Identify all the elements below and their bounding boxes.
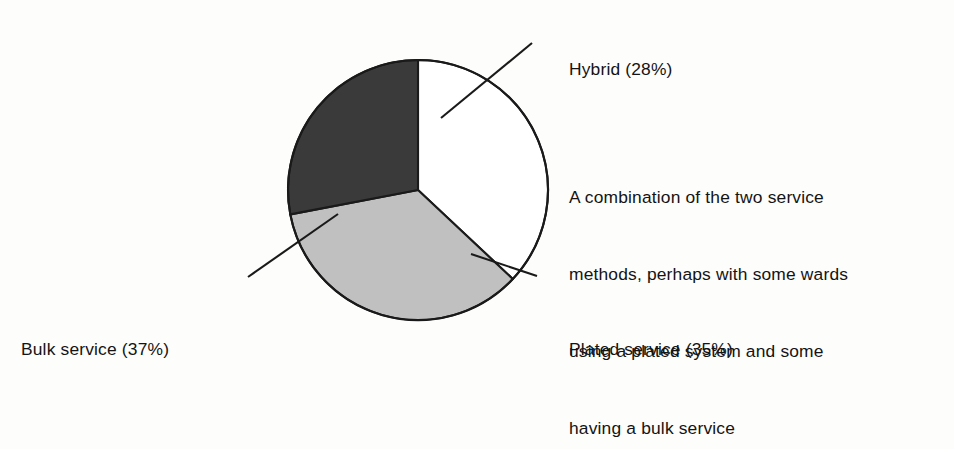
pie-chart-figure: Hybrid (28%) A combination of the two se… — [0, 0, 954, 449]
callout-hybrid-line-1: A combination of the two service — [569, 185, 954, 211]
callout-plated: Plated service (35%) Food is individuall… — [569, 286, 954, 449]
pie-slice-hybrid[interactable] — [288, 60, 418, 214]
callout-hybrid-line-2: methods, perhaps with some wards — [569, 262, 954, 288]
callout-hybrid-title: Hybrid (28%) — [569, 57, 954, 83]
callout-plated-body: Food is individually plated either withi… — [569, 414, 954, 449]
callout-plated-title: Plated service (35%) — [569, 337, 954, 363]
callout-bulk: Bulk service (37%) Food is placed in bul… — [21, 286, 451, 449]
callout-bulk-body: Food is placed in bulk in large containe… — [21, 414, 451, 449]
callout-bulk-title: Bulk service (37%) — [21, 337, 451, 363]
